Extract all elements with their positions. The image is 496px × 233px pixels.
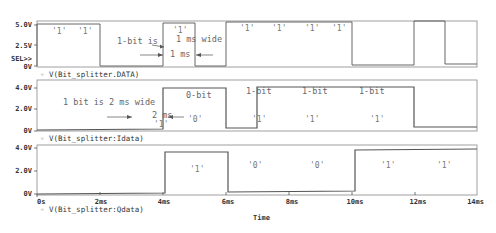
ytick-0v: 0V <box>24 63 33 71</box>
ytick-2v: 2.0V <box>15 167 33 175</box>
ytick-2v: 2.0V <box>15 105 33 113</box>
panel-data: 5.0V 2.5V SEL>> 0V '1' '1' '1' '1' '1' '… <box>11 21 477 79</box>
annotation-2ms: 2 ms <box>152 110 172 120</box>
legend-marker-icon: ◦ <box>40 205 49 214</box>
annotation-2ms-wide: 1 bit is 2 ms wide <box>63 97 155 107</box>
panel-data-frame <box>37 21 477 67</box>
data-bit-label: '1' <box>240 24 254 33</box>
sel-marker[interactable]: SEL>> <box>11 55 32 63</box>
trace-data <box>37 21 477 66</box>
panel-idata: 4.0V 2.0V 0V 1 bit is 2 ms wide 2 ms '1'… <box>15 80 477 143</box>
qdata-bit-label: '1' <box>381 161 395 170</box>
xtick-4ms: 4ms <box>158 198 171 206</box>
qdata-bit-label: '0' <box>310 161 324 170</box>
data-bit-label: '1' <box>52 27 66 36</box>
idata-bit-label: '1' <box>305 115 319 124</box>
data-bit-label: '1' <box>332 24 346 33</box>
panel-qdata-frame <box>37 145 477 195</box>
qdata-bit-label: '1' <box>437 161 451 170</box>
annotation-1bit: 1-bit <box>359 86 385 96</box>
annotation-0bit: 0-bit <box>186 90 212 100</box>
idata-bit-label: '1' <box>370 115 384 124</box>
annotation-1bit-is: 1-bit is <box>117 36 158 46</box>
trace-label-idata[interactable]: ◦ V(Bit_splitter:Idata) <box>40 134 144 143</box>
ytick-0v: 0V <box>24 127 33 135</box>
trace-label-qdata[interactable]: ◦ V(Bit_splitter:Qdata) <box>40 205 144 214</box>
qdata-bit-label: '0' <box>248 161 262 170</box>
annotation-1bit: 1-bit <box>302 86 328 96</box>
arrowhead-icon <box>158 53 163 57</box>
qdata-bit-label: '1' <box>190 165 204 174</box>
xtick-12ms: 12ms <box>410 198 427 206</box>
xtick-8ms: 8ms <box>286 198 299 206</box>
ytick-4v: 4.0V <box>15 144 33 152</box>
x-axis: 0s 2ms 4ms 6ms 8ms 10ms 12ms 14ms <box>37 192 484 206</box>
idata-bit-label: '0' <box>188 115 202 124</box>
xtick-14ms: 14ms <box>467 198 484 206</box>
annotation-1ms-wide: 1 ms wide <box>176 34 222 44</box>
annotation-1bit: 1-bit <box>246 86 272 96</box>
ytick-4v: 4.0V <box>15 84 33 92</box>
idata-bit-label: '1' <box>252 115 266 124</box>
annotation-1ms: 1 ms <box>170 49 190 59</box>
panel-qdata: 4.0V 2.0V 0V '1' '0' '0' '1' '1' 0s 2ms … <box>15 144 484 222</box>
xtick-6ms: 6ms <box>222 198 235 206</box>
ytick-5v: 5.0V <box>15 21 33 29</box>
data-bit-label: '1' <box>78 27 92 36</box>
x-axis-label: Time <box>253 214 270 222</box>
data-bit-label: '1' <box>272 24 286 33</box>
trace-qdata <box>37 149 477 194</box>
data-bit-label: '1' <box>305 24 319 33</box>
legend-marker-icon: ◦ <box>40 134 49 143</box>
arrowhead-icon <box>127 115 132 119</box>
ytick-0v: 0V <box>24 190 33 198</box>
xtick-10ms: 10ms <box>347 198 364 206</box>
trace-label-data[interactable]: ◦ V(Bit_splitter.DATA) <box>40 70 139 79</box>
idata-bit-label: '1' <box>154 120 168 129</box>
arrowhead-icon <box>196 53 201 57</box>
ytick-2-5v: 2.5V <box>15 42 33 50</box>
waveform-plot: 5.0V 2.5V SEL>> 0V '1' '1' '1' '1' '1' '… <box>0 0 496 233</box>
legend-marker-icon: ◦ <box>40 70 49 79</box>
